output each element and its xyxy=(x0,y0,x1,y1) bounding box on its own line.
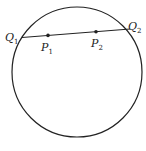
label-q1: Q1 xyxy=(5,31,19,46)
label-q2: Q2 xyxy=(128,20,142,35)
point-p1 xyxy=(46,34,50,38)
circle-chord-diagram: Q1 P1 P2 Q2 xyxy=(0,0,146,151)
point-p2 xyxy=(94,30,98,34)
label-p1: P1 xyxy=(40,41,53,56)
chord-q1-q2 xyxy=(22,29,130,38)
circle xyxy=(12,7,142,137)
label-p2: P2 xyxy=(90,37,103,52)
